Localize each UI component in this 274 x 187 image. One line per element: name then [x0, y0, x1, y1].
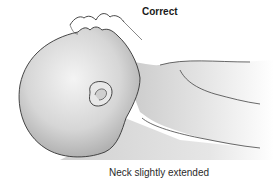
infant-illustration — [0, 0, 274, 187]
figure-caption: Neck slightly extended — [109, 167, 209, 178]
